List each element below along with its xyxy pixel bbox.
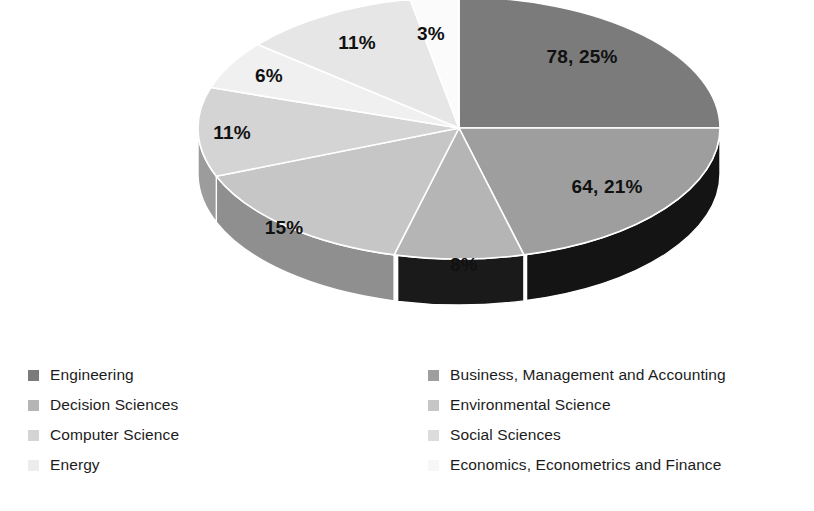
legend-item-label: Social Sciences (450, 426, 561, 444)
legend-item-label: Computer Science (50, 426, 179, 444)
legend-item[interactable]: Social Sciences (428, 420, 726, 450)
legend-swatch-icon (428, 370, 439, 381)
pie-label-computer-science: 11% (213, 122, 251, 144)
chart-legend: EngineeringDecision SciencesComputer Sci… (0, 360, 814, 511)
legend-swatch-icon (428, 430, 439, 441)
legend-item[interactable]: Environmental Science (428, 390, 726, 420)
legend-swatch-icon (28, 460, 39, 471)
pie-label-engineering: 78, 25% (546, 46, 617, 68)
pie-label-social-sciences: 6% (255, 65, 283, 87)
legend-item[interactable]: Decision Sciences (28, 390, 179, 420)
legend-item[interactable]: Business, Management and Accounting (428, 360, 726, 390)
legend-item[interactable]: Economics, Econometrics and Finance (428, 450, 726, 480)
pie-label-energy: 11% (338, 32, 376, 54)
legend-swatch-icon (28, 370, 39, 381)
pie-label-economics-econometrics-finance: 3% (417, 23, 445, 45)
legend-item-label: Business, Management and Accounting (450, 366, 726, 384)
legend-item[interactable]: Engineering (28, 360, 179, 390)
legend-item[interactable]: Computer Science (28, 420, 179, 450)
legend-item-label: Environmental Science (450, 396, 611, 414)
legend-swatch-icon (428, 460, 439, 471)
pie-label-business-management-accounting: 64, 21% (571, 176, 642, 198)
legend-item-label: Decision Sciences (50, 396, 178, 414)
pie-chart-svg (0, 0, 814, 360)
legend-column-left: EngineeringDecision SciencesComputer Sci… (28, 360, 179, 480)
legend-swatch-icon (28, 400, 39, 411)
legend-item-label: Energy (50, 456, 100, 474)
legend-item-label: Engineering (50, 366, 134, 384)
legend-swatch-icon (428, 400, 439, 411)
pie-label-environmental-science: 15% (265, 217, 304, 239)
legend-item-label: Economics, Econometrics and Finance (450, 456, 721, 474)
legend-item[interactable]: Energy (28, 450, 179, 480)
legend-swatch-icon (28, 430, 39, 441)
legend-column-right: Business, Management and AccountingEnvir… (428, 360, 726, 480)
pie-label-decision-sciences: 8% (450, 254, 478, 276)
pie-chart: 78, 25%64, 21%8%15%11%6%11%3% (0, 0, 814, 360)
